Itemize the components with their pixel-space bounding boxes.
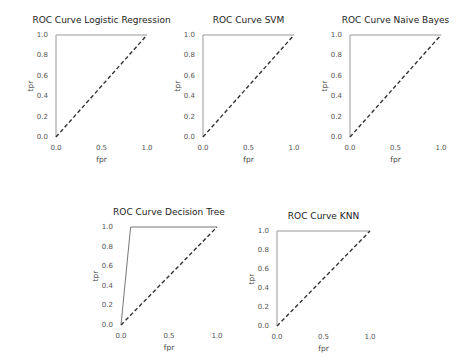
plot-area: [0, 0, 468, 362]
chance-diagonal-line: [277, 231, 370, 326]
